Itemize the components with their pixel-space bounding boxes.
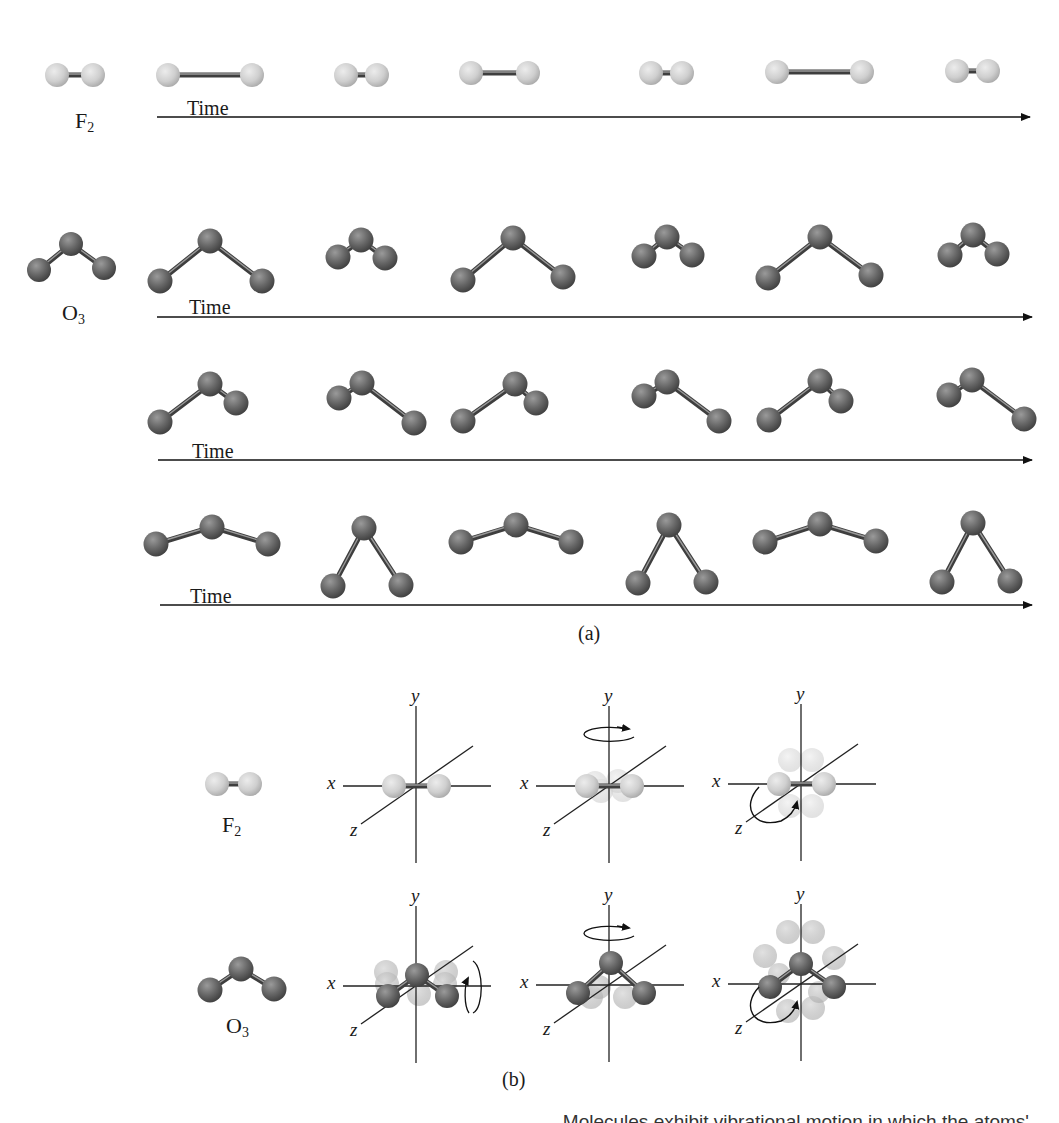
rotation-x-arrowhead-icon: [465, 978, 469, 1013]
oxygen-atom: [198, 229, 223, 254]
fluorine-atom: [81, 63, 105, 87]
oxygen-atom: [632, 981, 656, 1005]
oxygen-atom: [389, 573, 414, 598]
time-frame-3: [449, 513, 584, 555]
oxygen-atom: [655, 370, 680, 395]
time-label: Time: [189, 296, 231, 319]
time-frame-4: [639, 61, 694, 85]
oxygen-atom: [808, 369, 833, 394]
fluorine-atom: [516, 61, 540, 85]
oxygen-atom: [707, 409, 732, 434]
fluorine-atom: [459, 61, 483, 85]
time-frame-6: [930, 511, 1023, 595]
fluorine-atom: [45, 63, 69, 87]
fluorine-atom: [334, 63, 358, 87]
oxygen-atom: [350, 371, 375, 396]
axis-system-3-rotation-z: [728, 704, 876, 861]
time-frame-1: [156, 63, 264, 87]
x-axis-label: x: [520, 772, 528, 794]
x-axis-label: x: [520, 971, 528, 993]
oxygen-atom: [559, 530, 584, 555]
oxygen-atom: [451, 409, 476, 434]
fluorine-atom: [639, 61, 663, 85]
oxygen-atom: [435, 984, 459, 1008]
oxygen-atom: [632, 384, 657, 409]
axis-system-2-rotation-y: [536, 905, 684, 1062]
time-frame-5: [765, 60, 874, 84]
axis-system-2-rotation-y: [536, 706, 684, 863]
molecule-label: O3: [62, 300, 85, 328]
rotation-ghost-atom: [778, 748, 802, 772]
y-axis-label: y: [604, 884, 612, 906]
panel-a-label: (a): [578, 622, 600, 645]
oxygen-atom: [938, 243, 963, 268]
reference-molecule: [205, 772, 262, 796]
fluorine-atom: [945, 59, 969, 83]
oxygen-atom: [655, 225, 680, 250]
oxygen-atom: [144, 532, 169, 557]
oxygen-atom: [599, 951, 623, 975]
oxygen-atom: [657, 513, 682, 538]
time-frame-3: [459, 61, 540, 85]
oxygen-atom: [998, 569, 1023, 594]
y-axis-label: y: [604, 685, 612, 707]
oxygen-atom: [757, 408, 782, 433]
rotation-ghost-atom: [776, 920, 800, 944]
oxygen-atom: [694, 570, 719, 595]
fluorine-atom: [670, 61, 694, 85]
z-axis-label: z: [350, 819, 357, 841]
motion-row-4: [144, 511, 1033, 606]
time-label: Time: [190, 585, 232, 608]
oxygen-atom: [808, 512, 833, 537]
oxygen-atom: [524, 391, 549, 416]
oxygen-atom: [352, 516, 377, 541]
time-frame-3: [451, 372, 549, 434]
time-frame-3: [451, 226, 576, 293]
z-axis-label: z: [735, 817, 742, 839]
time-label: Time: [187, 97, 229, 120]
fluorine-atom: [156, 63, 180, 87]
time-frame-1: [148, 229, 275, 294]
fluorine-atom: [382, 774, 406, 798]
x-axis-label: x: [327, 772, 335, 794]
z-axis-label: z: [735, 1017, 742, 1039]
axis-system-1-rotation-none: [343, 706, 491, 863]
reference-molecule: [27, 232, 116, 282]
oxygen-atom: [753, 530, 778, 555]
oxygen-atom: [961, 223, 986, 248]
oxygen-atom: [262, 977, 287, 1002]
time-frame-5: [753, 512, 889, 555]
axis-system-1-rotation-x: [343, 906, 491, 1063]
oxygen-atom: [961, 511, 986, 536]
oxygen-atom: [27, 258, 51, 282]
time-frame-1: [148, 372, 249, 435]
oxygen-atom: [566, 981, 590, 1005]
z-axis-label: z: [350, 1019, 357, 1041]
y-axis-label: y: [796, 683, 804, 705]
z-axis-label: z: [543, 819, 550, 841]
fluorine-atom: [427, 774, 451, 798]
oxygen-atom: [859, 263, 884, 288]
time-frame-4: [626, 513, 719, 596]
time-frame-5: [756, 225, 884, 291]
oxygen-atom: [985, 242, 1010, 267]
fluorine-atom: [620, 774, 644, 798]
motion-row-2: [27, 223, 1032, 318]
oxygen-atom: [1012, 407, 1037, 432]
oxygen-atom: [632, 244, 657, 269]
oxygen-atom: [449, 530, 474, 555]
oxygen-atom: [864, 529, 889, 554]
y-axis-label: y: [796, 883, 804, 905]
molecule-label: F2: [222, 812, 241, 840]
time-frame-5: [757, 369, 854, 433]
oxygen-atom: [327, 386, 352, 411]
rotation-ghost-atom: [800, 794, 824, 818]
oxygen-atom: [551, 265, 576, 290]
oxygen-atom: [756, 266, 781, 291]
oxygen-atom: [321, 574, 346, 599]
x-axis-label: x: [712, 970, 720, 992]
rotation-row-1: [205, 704, 876, 863]
oxygen-atom: [198, 978, 223, 1003]
oxygen-atom: [501, 226, 526, 251]
fluorine-atom: [765, 60, 789, 84]
